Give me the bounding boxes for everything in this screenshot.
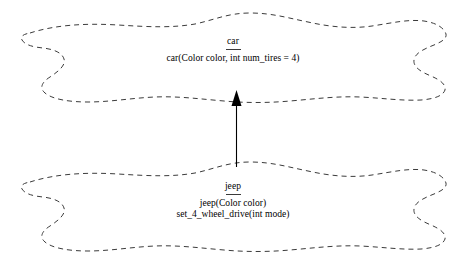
- jeep-class-text: jeep jeep(Color color) set_4_wheel_drive…: [0, 181, 466, 219]
- inheritance-arrow-head: [232, 90, 242, 106]
- jeep-class-separator: [226, 194, 241, 195]
- inheritance-arrow[interactable]: [232, 90, 242, 167]
- jeep-class-member-1: set_4_wheel_drive(int mode): [0, 209, 466, 220]
- car-class-name: car: [0, 36, 466, 47]
- car-class-separator: [226, 49, 241, 50]
- car-class-text: car car(Color color, int num_tires = 4): [0, 36, 466, 64]
- jeep-class-member-0: jeep(Color color): [0, 198, 466, 209]
- uml-diagram-canvas: car car(Color color, int num_tires = 4) …: [0, 0, 466, 271]
- jeep-class-name: jeep: [0, 181, 466, 192]
- car-class-member-0: car(Color color, int num_tires = 4): [0, 53, 466, 64]
